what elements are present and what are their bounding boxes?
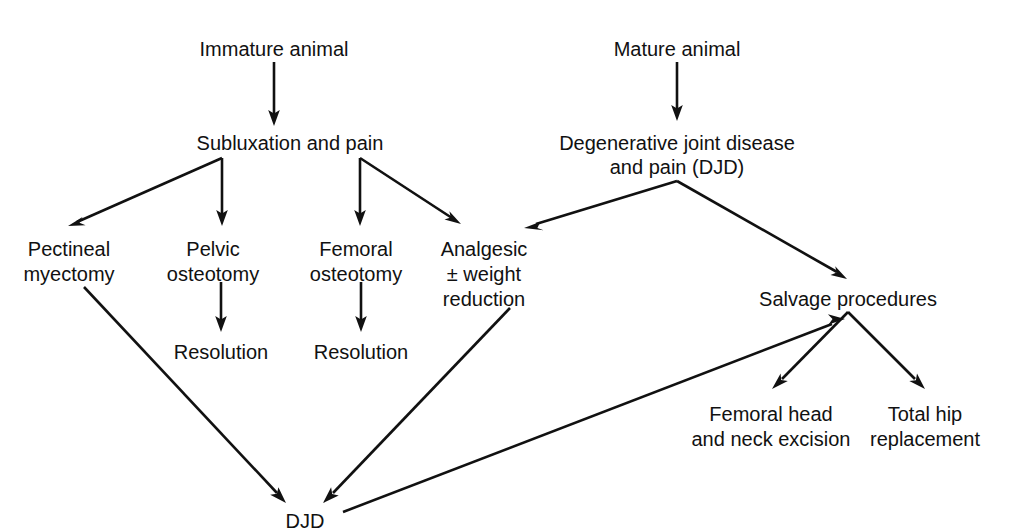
node-salvage-procedures: Salvage procedures (759, 288, 937, 310)
node-subluxation-and-pain: Subluxation and pain (197, 132, 384, 154)
node-label-djd-top-line1: Degenerative joint disease (559, 132, 795, 154)
node-resolution-right: Resolution (314, 341, 409, 363)
node-label-femoral-line2: osteotomy (310, 263, 402, 285)
edge-subluxation-to-pectineal (68, 158, 222, 226)
edge-subluxation-to-analgesic (360, 158, 461, 224)
edge-subluxation-to-femoral (354, 158, 366, 226)
edge-subluxation-to-pelvic (216, 158, 228, 226)
node-label-total-hip-line2: replacement (870, 428, 981, 450)
edge-pectineal-to-djdbottom (84, 287, 286, 503)
node-label-subluxation-and-pain: Subluxation and pain (197, 132, 384, 154)
node-pectineal-myectomy: Pectineal myectomy (23, 238, 114, 285)
node-label-femoral-head-line1: Femoral head (709, 403, 832, 425)
edge-immature-to-subluxation (268, 62, 280, 126)
edge-djdtop-to-salvage (677, 181, 847, 279)
node-analgesic-weight-reduction: Analgesic ± weight reduction (441, 238, 528, 310)
node-djd-bottom: DJD (286, 510, 325, 532)
node-mature-animal: Mature animal (614, 38, 741, 60)
node-total-hip-replacement: Total hip replacement (870, 403, 981, 450)
node-label-pectineal-line2: myectomy (23, 263, 114, 285)
edge-analgesic-to-djdbottom (323, 308, 510, 503)
node-label-djd-bottom: DJD (286, 510, 325, 532)
node-label-salvage-procedures: Salvage procedures (759, 288, 937, 310)
edge-mature-to-djd (671, 62, 683, 121)
edge-femoral-to-resolution (355, 282, 367, 332)
edge-salvage-to-totalhip (848, 312, 925, 389)
edge-pelvic-to-resolution (215, 282, 227, 332)
node-pelvic-osteotomy: Pelvic osteotomy (167, 238, 259, 285)
node-label-pectineal-line1: Pectineal (28, 238, 110, 260)
node-femoral-head-and-neck-excision: Femoral head and neck excision (692, 403, 851, 450)
node-label-analgesic-line3: reduction (443, 288, 525, 310)
node-label-djd-top-line2: and pain (DJD) (610, 156, 745, 178)
edge-djdtop-to-analgesic (524, 181, 677, 230)
node-label-analgesic-line1: Analgesic (441, 238, 528, 260)
node-resolution-left: Resolution (174, 341, 269, 363)
node-label-immature-animal: Immature animal (200, 38, 349, 60)
node-label-analgesic-line2: ± weight (447, 263, 522, 285)
node-label-pelvic-line2: osteotomy (167, 263, 259, 285)
flowchart-diagram: Immature animal Mature animal Subluxatio… (0, 0, 1018, 532)
node-femoral-osteotomy: Femoral osteotomy (310, 238, 402, 285)
node-label-total-hip-line1: Total hip (888, 403, 963, 425)
node-label-femoral-head-line2: and neck excision (692, 428, 851, 450)
node-immature-animal: Immature animal (200, 38, 349, 60)
node-label-femoral-line1: Femoral (319, 238, 392, 260)
node-label-resolution-right: Resolution (314, 341, 409, 363)
node-degenerative-joint-disease: Degenerative joint disease and pain (DJD… (559, 132, 795, 178)
flowchart-canvas: Immature animal Mature animal Subluxatio… (0, 0, 1018, 532)
node-label-pelvic-line1: Pelvic (186, 238, 239, 260)
node-label-resolution-left: Resolution (174, 341, 269, 363)
node-label-mature-animal: Mature animal (614, 38, 741, 60)
edge-salvage-to-femoralhead (772, 312, 848, 389)
